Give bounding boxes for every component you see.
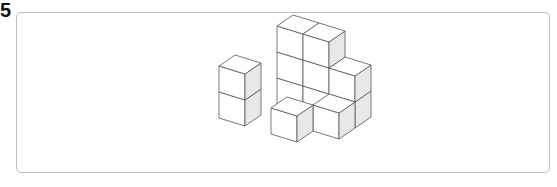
cube-figure xyxy=(0,0,557,187)
